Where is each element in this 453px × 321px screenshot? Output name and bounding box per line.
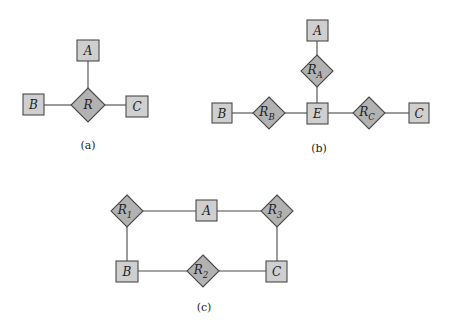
diagram-c: R1 A R3 B R2 C (c) [111,195,293,314]
svg-text:R: R [82,98,92,112]
svg-text:A: A [201,204,211,218]
svg-text:B: B [28,98,38,112]
caption-b: (b) [311,142,327,155]
relationship-r: R [71,88,105,122]
entity-b: B [23,94,44,115]
relationship-rc: RC [353,97,385,129]
relationship-r2: R2 [187,255,219,287]
svg-text:C: C [414,107,423,121]
relationship-r3: R3 [261,195,293,227]
entity-c: C [126,96,148,117]
entity-c: C [409,103,429,123]
entity-a: A [307,20,328,41]
svg-text:B: B [122,265,132,279]
svg-text:B: B [217,107,227,121]
relationship-ra: RA [301,55,333,87]
relationship-r1: R1 [111,195,143,227]
entity-e: E [307,103,328,124]
entity-c: C [266,261,287,282]
entity-b: B [116,261,138,282]
diagram-b: A RA B RB E RC C (b) [212,20,429,155]
svg-text:A: A [83,44,93,58]
caption-c: (c) [197,301,212,314]
svg-text:E: E [312,107,322,121]
diagram-a: A B C R (a) [23,40,148,152]
entity-b: B [212,103,232,123]
svg-text:C: C [132,100,141,114]
entity-a: A [77,40,99,61]
relationship-rb: RB [253,97,285,129]
er-diagram-figure: A B C R (a) A RA [0,0,453,321]
svg-text:A: A [312,24,322,38]
svg-text:C: C [272,265,281,279]
entity-a: A [196,200,217,221]
caption-a: (a) [80,139,95,152]
